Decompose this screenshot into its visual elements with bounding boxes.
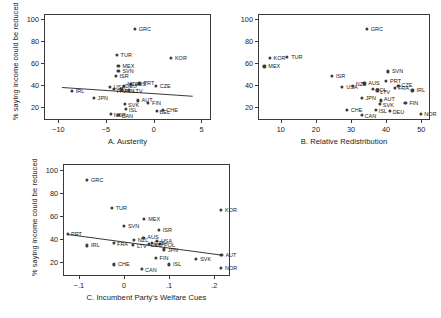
figure-canvas: % saying income could be reduced % sayin… — [0, 0, 441, 318]
panel-a-title: A. Austerity — [44, 137, 211, 146]
y-tickmark — [255, 63, 258, 64]
y-tick-label: 80 — [232, 37, 253, 46]
data-point-label: CZE — [401, 82, 412, 88]
data-point-label: NZL — [356, 81, 366, 87]
data-point-label: FIN — [160, 255, 169, 261]
data-point-label: ISR — [163, 227, 172, 233]
data-point-label: PRT — [71, 231, 82, 237]
x-tickmark — [124, 276, 125, 279]
data-point-label: KOR — [225, 207, 237, 213]
y-tick-label: 80 — [37, 188, 58, 197]
y-tick-label: 60 — [232, 59, 253, 68]
y-tickmark — [41, 85, 44, 86]
data-point-label: KOR — [175, 55, 187, 61]
x-tickmark — [58, 120, 59, 123]
y-tick-label: 100 — [18, 15, 39, 24]
x-tick-label: −.1 — [74, 281, 84, 290]
data-point-label: NOR — [225, 265, 237, 271]
data-point-label: LTV — [137, 243, 147, 249]
x-tickmark — [201, 120, 202, 123]
data-point-label: DEU — [125, 83, 137, 89]
data-point-label: CAN — [365, 113, 377, 119]
data-point-label: ISL — [173, 261, 181, 267]
data-point-label: CAN — [121, 113, 133, 119]
data-point-label: MEX — [268, 63, 280, 69]
y-tickmark — [255, 85, 258, 86]
x-tickmark — [79, 276, 80, 279]
x-tickmark — [351, 120, 352, 123]
data-point-label: CHE — [351, 107, 363, 113]
data-point-label: IRL — [416, 87, 425, 93]
y-tick-label: 20 — [37, 258, 58, 267]
y-tick-label: 100 — [37, 165, 58, 174]
x-tick-label: 0 — [152, 125, 156, 134]
x-tick-label: −10 — [52, 125, 64, 134]
data-point-label: CHE — [118, 261, 130, 267]
data-point-label: SVK — [200, 256, 211, 262]
panel-b-title: B. Relative Redistribution — [258, 137, 430, 146]
data-point-label: ISR — [336, 73, 345, 79]
y-tick-label: 20 — [232, 102, 253, 111]
data-point-label: JPN — [366, 95, 376, 101]
x-tickmark — [169, 276, 170, 279]
data-point-label: FIN — [152, 100, 161, 106]
x-tick-label: 0 — [122, 281, 126, 290]
y-tickmark — [41, 19, 44, 20]
x-tick-label: 40 — [382, 125, 390, 134]
data-point-label: AUT — [225, 252, 236, 258]
data-point-label: IRL — [91, 242, 100, 248]
panel-c-title: C. Incumbent Party's Welfare Cues — [63, 293, 230, 302]
data-point-label: TUR — [116, 205, 127, 211]
y-tick-label: 20 — [18, 102, 39, 111]
x-tick-label: .1 — [166, 281, 172, 290]
data-point-label: CZE — [160, 83, 171, 89]
x-tickmark — [421, 120, 422, 123]
x-tick-label: 10 — [277, 125, 285, 134]
x-tick-label: .2 — [211, 281, 217, 290]
y-tick-label: 40 — [232, 81, 253, 90]
data-point-label: TUR — [291, 54, 302, 60]
data-point-label: CAN — [145, 267, 157, 273]
x-tick-label: 50 — [417, 125, 425, 134]
x-tick-label: 30 — [347, 125, 355, 134]
y-tick-label: 80 — [18, 37, 39, 46]
x-tickmark — [154, 120, 155, 123]
data-point-label: GRC — [371, 26, 383, 32]
x-tickmark — [106, 120, 107, 123]
y-tick-label: 60 — [37, 211, 58, 220]
data-point-label: CZE — [154, 240, 165, 246]
y-tick-label: 40 — [18, 81, 39, 90]
data-point-label: NOR — [424, 111, 436, 117]
y-tickmark — [60, 262, 63, 263]
data-point-label: SVN — [392, 68, 403, 74]
x-tick-label: 20 — [312, 125, 320, 134]
data-point-label: JPN — [98, 95, 108, 101]
y-tickmark — [41, 63, 44, 64]
data-point-label: SVN — [128, 223, 139, 229]
data-point-label: FIN — [409, 100, 418, 106]
data-point-label: CHE — [166, 107, 178, 113]
data-point-label: ISL — [379, 108, 387, 114]
x-tick-label: −5 — [102, 125, 110, 134]
data-point-label: PRT — [390, 78, 401, 84]
x-tickmark — [386, 120, 387, 123]
data-point-label: ISR — [120, 73, 129, 79]
y-tickmark — [60, 239, 63, 240]
x-tick-label: 5 — [199, 125, 203, 134]
y-tickmark — [60, 216, 63, 217]
y-tickmark — [60, 193, 63, 194]
data-point-label: DEU — [393, 109, 405, 115]
data-point-label: JPN — [168, 247, 178, 253]
plot-area-relative-redistribution — [258, 14, 430, 120]
y-tick-label: 100 — [232, 15, 253, 24]
data-point-label: IRL — [76, 88, 85, 94]
y-tickmark — [255, 41, 258, 42]
data-point-label: GRC — [139, 26, 151, 32]
x-tickmark — [316, 120, 317, 123]
y-tickmark — [41, 107, 44, 108]
y-tickmark — [255, 19, 258, 20]
data-point-label: TUR — [121, 52, 132, 58]
data-point-label: LTV — [380, 89, 390, 95]
data-point-label: AUS — [368, 80, 379, 86]
data-point-label: MEX — [148, 216, 160, 222]
